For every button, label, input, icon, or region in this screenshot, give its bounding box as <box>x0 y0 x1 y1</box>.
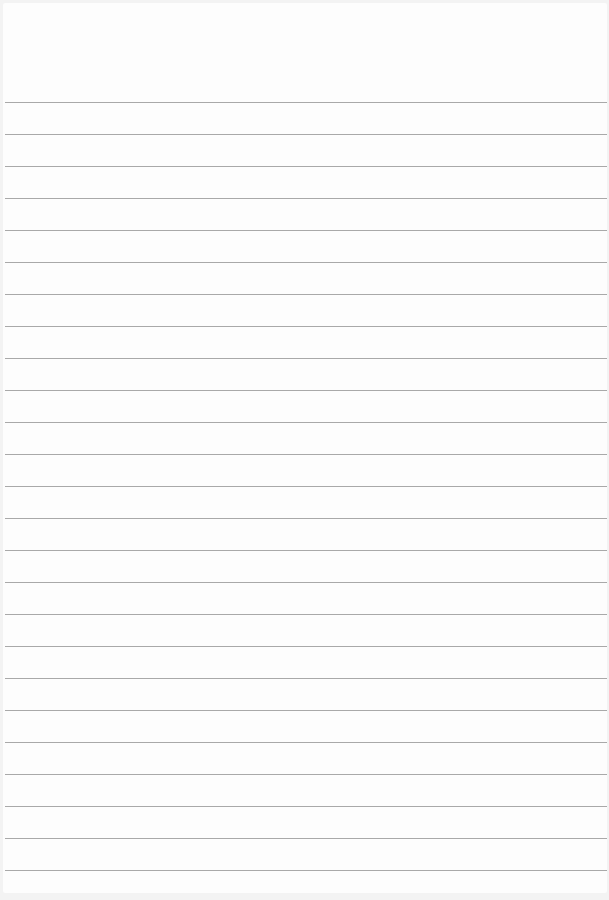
ruled-line <box>5 230 607 231</box>
ruled-line <box>5 262 607 263</box>
ruled-line <box>5 102 607 103</box>
ruled-line <box>5 582 607 583</box>
ruled-line <box>5 806 607 807</box>
ruled-line <box>5 134 607 135</box>
ruled-line <box>5 550 607 551</box>
ruled-line <box>5 390 607 391</box>
ruled-line <box>5 678 607 679</box>
ruled-line <box>5 454 607 455</box>
ruled-line <box>5 614 607 615</box>
ruled-line <box>5 358 607 359</box>
ruled-line <box>5 518 607 519</box>
ruled-line <box>5 422 607 423</box>
ruled-line <box>5 486 607 487</box>
lined-paper-sheet <box>3 3 607 893</box>
ruled-line <box>5 870 607 871</box>
ruled-line <box>5 742 607 743</box>
ruled-line <box>5 198 607 199</box>
ruled-line <box>5 326 607 327</box>
ruled-line <box>5 838 607 839</box>
ruled-line <box>5 774 607 775</box>
ruled-line <box>5 710 607 711</box>
ruled-line <box>5 294 607 295</box>
ruled-line <box>5 166 607 167</box>
ruled-line <box>5 646 607 647</box>
